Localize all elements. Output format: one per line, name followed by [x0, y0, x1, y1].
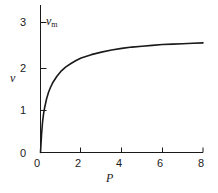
chart-figure: 3 2 1 0 0 2 4 6 8 v P vm [0, 0, 218, 193]
y-tick-label-0: 0 [20, 148, 26, 159]
vmax-annotation: vm [46, 15, 58, 27]
vmax-subscript: m [51, 20, 57, 29]
y-axis-ticks [41, 23, 47, 111]
x-axis-title: P [106, 172, 113, 184]
y-tick-label-1: 1 [20, 105, 26, 116]
x-axis-ticks [81, 148, 204, 153]
x-tick-label-4: 4 [116, 158, 122, 169]
x-tick-label-6: 6 [157, 158, 163, 169]
y-tick-label-3: 3 [20, 17, 26, 28]
y-axis-title: v [10, 72, 15, 84]
plot-canvas [0, 0, 218, 193]
x-tick-label-8: 8 [198, 158, 204, 169]
x-tick-label-0: 0 [34, 158, 40, 169]
y-tick-label-2: 2 [20, 63, 26, 74]
data-curve [41, 43, 204, 153]
x-tick-label-2: 2 [75, 158, 81, 169]
